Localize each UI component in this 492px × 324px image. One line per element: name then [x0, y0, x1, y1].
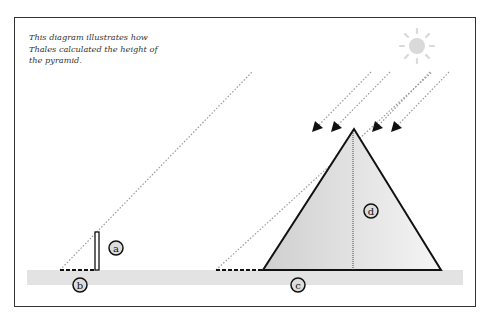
- stick-sun-ray: [60, 72, 252, 270]
- incoming-sun-rays: [318, 72, 449, 126]
- sun-icon: [400, 29, 434, 63]
- pyramid: [263, 129, 441, 270]
- svg-text:b: b: [77, 280, 83, 291]
- label-c: c: [291, 278, 305, 292]
- label-b: b: [73, 278, 87, 292]
- stick: [95, 232, 99, 270]
- svg-text:a: a: [113, 243, 119, 254]
- svg-text:c: c: [295, 280, 301, 291]
- label-a: a: [109, 241, 123, 255]
- label-d: d: [364, 204, 378, 218]
- thales-diagram: a b c d: [0, 0, 492, 324]
- ground-band: [27, 270, 463, 285]
- arrow-icon: [312, 121, 402, 132]
- svg-text:d: d: [368, 206, 375, 217]
